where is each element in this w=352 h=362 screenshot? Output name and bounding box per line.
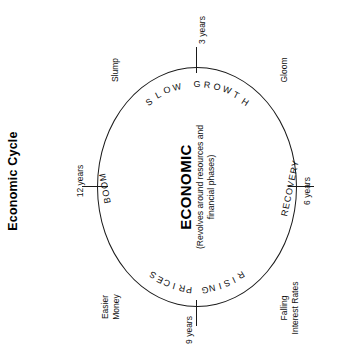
descriptor-line-2: Interest Rates (290, 282, 301, 335)
descriptor-line-1: Easier (100, 294, 111, 320)
tick-label-3-years: 3 years (198, 16, 208, 44)
descriptor-falling-interest-rates: Falling Interest Rates (279, 282, 300, 335)
descriptor-gloom: Gloom (280, 57, 290, 82)
center-heading: ECONOMIC (177, 112, 194, 262)
descriptor-line-2: Money (111, 294, 122, 320)
center-subtitle: (Revolves around resources and financial… (195, 112, 216, 262)
center-label-group: ECONOMIC (Revolves around resources and … (177, 112, 216, 262)
economic-cycle-diagram: Economic Cycle 3 years 6 years 9 years 1… (0, 0, 352, 362)
tick-label-6-years: 6 years (303, 177, 313, 205)
tick-label-9-years: 9 years (185, 316, 195, 344)
descriptor-line-1: Falling (279, 282, 290, 335)
tick-label-12-years: 12 years (76, 165, 86, 198)
descriptor-slump: Slump (111, 58, 121, 82)
descriptor-easier-money: Easier Money (100, 294, 121, 320)
page-title: Economic Cycle (6, 131, 20, 230)
tick-mark-rising-prices (196, 300, 197, 326)
tick-mark-slow-growth (196, 47, 197, 73)
